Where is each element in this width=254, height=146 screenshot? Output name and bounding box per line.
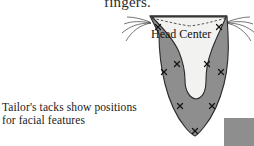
illustration-figure: fingers. — [0, 0, 254, 146]
thread-tails-left — [122, 17, 151, 41]
caption-line-1: Tailor's tacks show positions — [2, 101, 132, 114]
thread-tails-right — [226, 17, 254, 41]
cropped-text-fingers: fingers. — [104, 0, 151, 11]
head-center-label: Head Center — [151, 27, 211, 42]
caption-line-2: for facial features — [2, 114, 132, 127]
caption: Tailor's tacks show positions for facial… — [2, 101, 132, 126]
fabric-swatch — [224, 118, 254, 146]
